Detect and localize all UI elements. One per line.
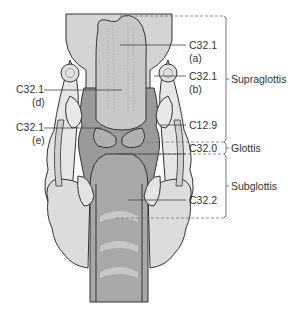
label-c32-1-a-sub: (a)	[189, 52, 202, 64]
label-c12-9: C12.9	[189, 119, 217, 131]
region-glottis: Glottis	[231, 142, 261, 154]
larynx-illustration	[0, 0, 298, 312]
region-subglottis: Subglottis	[231, 180, 277, 192]
label-c32-1-b-code: C32.1	[189, 70, 217, 82]
region-supraglottis: Supraglottis	[231, 73, 286, 85]
label-c32-0: C32.0	[189, 142, 217, 154]
label-c32-1-a-code: C32.1	[189, 39, 217, 51]
larynx-diagram: C32.1 (a) C32.1 (b) C12.9 C32.0 C32.2 C3…	[0, 0, 298, 312]
label-c32-1-b-sub: (b)	[189, 83, 202, 95]
label-c32-1-d-code: C32.1	[16, 83, 44, 95]
label-c32-2: C32.2	[189, 194, 217, 206]
label-c32-1-d-sub: (d)	[32, 96, 45, 108]
label-c32-1-e-code: C32.1	[16, 121, 44, 133]
label-c32-1-e-sub: (e)	[32, 134, 45, 146]
